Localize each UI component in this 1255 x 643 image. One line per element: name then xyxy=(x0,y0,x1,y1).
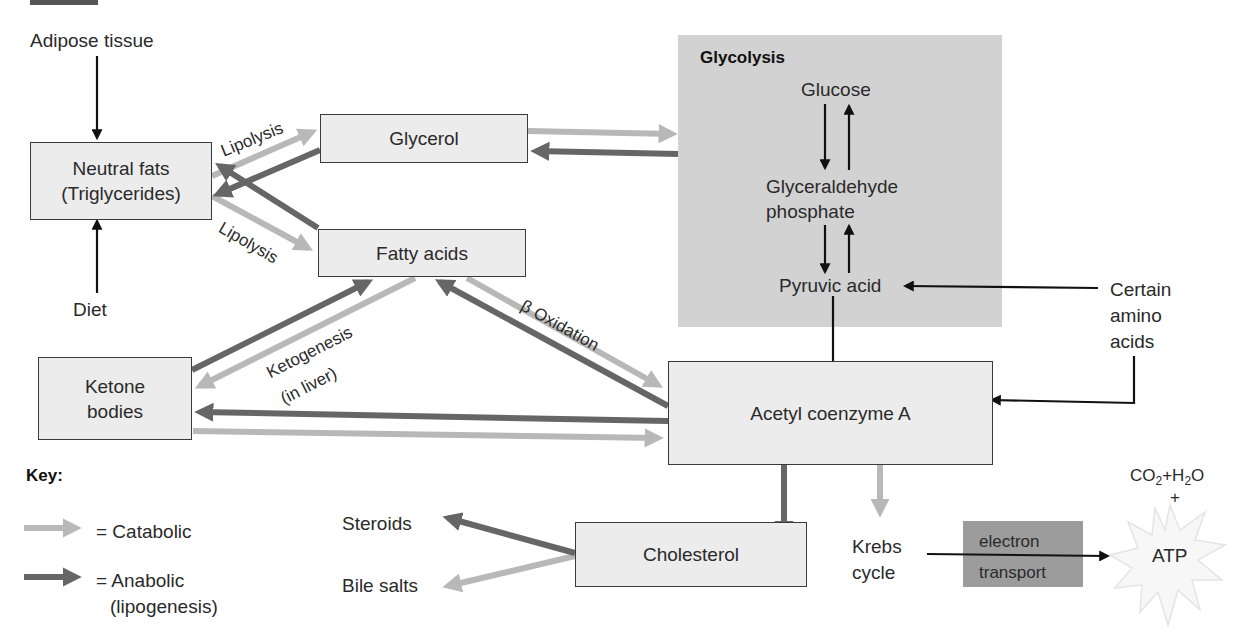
neutral-fats-box: Neutral fats (Triglycerides) xyxy=(30,142,212,220)
cholesterol-box: Cholesterol xyxy=(575,522,807,587)
bodies-label: bodies xyxy=(87,399,143,424)
fattyacids-to-fats-anabolic xyxy=(220,166,318,228)
key-anabolic-label: = Anabolic xyxy=(96,569,184,593)
glyceraldehyde-label: Glyceraldehyde xyxy=(766,175,898,199)
cycle-label: cycle xyxy=(852,561,895,585)
pyruvic-acid-label: Pyruvic acid xyxy=(779,274,881,298)
glycerol-label: Glycerol xyxy=(389,126,459,151)
fattyacids-to-ketone-catabolic xyxy=(200,278,415,386)
co2-h2o-label: CO2+H2O xyxy=(1130,464,1204,493)
key-title: Key: xyxy=(26,466,63,486)
fat-metabolism-diagram: Glycolysis xyxy=(0,0,1255,643)
acids-label: acids xyxy=(1110,330,1154,354)
atp-label: ATP xyxy=(1152,544,1188,568)
transport-label: transport xyxy=(979,561,1046,585)
bile-salts-label: Bile salts xyxy=(342,574,418,598)
key-lipogenesis-label: (lipogenesis) xyxy=(110,595,218,619)
neutral-fats-label: Neutral fats xyxy=(72,156,169,181)
ketone-to-acetyl-catabolic xyxy=(193,431,658,438)
acetyl-coa-label: Acetyl coenzyme A xyxy=(750,401,911,426)
ketone-bodies-box: Ketone bodies xyxy=(38,357,192,440)
triglycerides-label: (Triglycerides) xyxy=(61,181,181,206)
ketone-label: Ketone xyxy=(85,374,145,399)
glucose-label: Glucose xyxy=(801,78,871,102)
glycolysis-to-glycerol-anabolic xyxy=(536,151,678,154)
fatty-acids-label: Fatty acids xyxy=(376,241,468,266)
electron-label: electron xyxy=(979,530,1039,554)
diet-label: Diet xyxy=(73,298,107,322)
cholesterol-to-steroids-anabolic xyxy=(448,518,575,553)
cholesterol-label: Cholesterol xyxy=(643,542,739,567)
phosphate-label: phosphate xyxy=(766,200,855,224)
amino-to-acetyl-arrow xyxy=(992,356,1134,403)
glycerol-box: Glycerol xyxy=(320,114,528,163)
fatty-acids-box: Fatty acids xyxy=(318,229,526,277)
amino-label: amino xyxy=(1110,304,1162,328)
plus-label: + xyxy=(1170,486,1180,510)
krebs-label: Krebs xyxy=(852,535,902,559)
acetyl-coa-box: Acetyl coenzyme A xyxy=(668,361,993,465)
amino-to-pyruvic-arrow xyxy=(905,286,1098,288)
acetyl-to-fattyacids-anabolic xyxy=(440,282,668,406)
certain-label: Certain xyxy=(1110,278,1171,302)
adipose-tissue-label: Adipose tissue xyxy=(30,29,154,53)
steroids-label: Steroids xyxy=(342,512,412,536)
glycerol-to-glycolysis-catabolic xyxy=(528,131,672,134)
cholesterol-to-bilesalts-catabolic xyxy=(448,556,575,586)
acetyl-to-ketone-anabolic xyxy=(200,412,668,421)
krebs-to-atp-arrow xyxy=(927,554,1108,556)
key-catabolic-label: = Catabolic xyxy=(96,520,192,544)
